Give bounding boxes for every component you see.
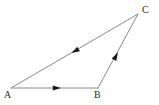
vertex-label-b: B	[94, 90, 101, 100]
vertex-label-a: A	[4, 90, 11, 100]
diagram-canvas: A B C	[0, 0, 159, 105]
triangle-figure	[0, 0, 159, 105]
arrow-markers-group	[53, 47, 120, 91]
vertex-label-c: C	[142, 5, 149, 15]
edge-AB-arrowhead	[53, 85, 61, 90]
edge-CA-arrowhead	[70, 47, 80, 56]
